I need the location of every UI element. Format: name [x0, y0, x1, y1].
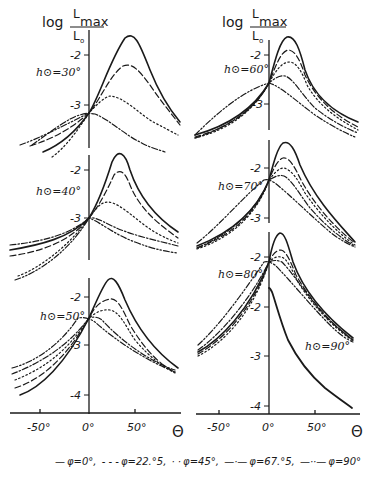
curve-phi-45: [15, 310, 175, 380]
svg-text:-4: -4: [70, 389, 81, 402]
svg-text:-3: -3: [250, 212, 261, 225]
legend-dotted-swatch: · ·: [172, 456, 182, 467]
curve-phi-22-5: [195, 50, 358, 137]
y-axis-label-left: log L max L o: [42, 7, 109, 45]
legend: —φ=0°, - - -φ=22.°5, · ·φ=45°, —·—φ=67.°…: [55, 456, 363, 467]
svg-text:h⊙=60°: h⊙=60°: [224, 63, 269, 76]
legend-dash-dot-dot-swatch: —··—: [300, 456, 326, 467]
svg-text:-4: -4: [250, 400, 261, 413]
svg-text:-3: -3: [70, 99, 81, 112]
svg-text:h⊙=30°: h⊙=30°: [36, 66, 81, 79]
legend-item-phi-0: φ=0°,: [67, 456, 97, 467]
svg-text:-2: -2: [250, 162, 261, 175]
curve-phi-67-5: [32, 113, 165, 152]
curve-phi-0: [10, 154, 178, 250]
legend-dash-dot-swatch: —·—: [224, 456, 247, 467]
svg-text:50°: 50°: [127, 421, 147, 434]
svg-text:h⊙=80°: h⊙=80°: [218, 268, 263, 281]
svg-text:o: o: [80, 37, 84, 45]
svg-text:-50°: -50°: [207, 421, 230, 434]
svg-text:0°: 0°: [262, 421, 275, 434]
x-tick-labels: -50° 0° 50° Θ -50° 0° 50° Θ: [27, 421, 363, 441]
svg-text:h⊙=40°: h⊙=40°: [36, 185, 81, 198]
svg-text:h⊙=50°: h⊙=50°: [40, 310, 85, 323]
curve-phi-67-5: [10, 218, 178, 246]
curve-phi-67-5: [12, 317, 175, 374]
svg-text:0°: 0°: [82, 421, 95, 434]
curve-phi-45: [18, 202, 178, 276]
curve-phi-0: [197, 142, 355, 246]
svg-text:-2: -2: [250, 251, 261, 264]
svg-text:log: log: [42, 14, 63, 30]
svg-text:o: o: [259, 37, 263, 45]
panel-h60: [195, 37, 358, 138]
svg-text:-2: -2: [250, 49, 261, 62]
curve-phi-0: [43, 36, 180, 152]
legend-dashed-swatch: - - -: [102, 456, 119, 467]
svg-text:log: log: [222, 14, 243, 30]
y-axis-label-right: log L max L o: [222, 7, 288, 45]
svg-text:Θ: Θ: [351, 423, 363, 441]
panel-h30: [20, 36, 180, 157]
svg-text:-50°: -50°: [27, 421, 50, 434]
curve-phi-0: [20, 278, 178, 395]
svg-text:Θ: Θ: [172, 423, 184, 441]
curve-phi-0: [198, 233, 353, 352]
figure-canvas: log L max L o log L max L o: [0, 0, 389, 483]
horizontal-axes: [10, 409, 360, 414]
legend-item-phi-45: φ=45°,: [183, 456, 219, 467]
svg-text:L: L: [73, 29, 80, 43]
panel-h70: [197, 142, 355, 249]
curve-phi-90: [12, 318, 175, 372]
legend-item-phi-67-5: φ=67.°5,: [249, 456, 294, 467]
svg-text:L: L: [73, 7, 80, 21]
svg-text:L: L: [252, 29, 259, 43]
svg-text:-3: -3: [250, 350, 261, 363]
panel-h50: [12, 278, 178, 395]
svg-text:-2: -2: [70, 291, 81, 304]
legend-item-phi-22-5: φ=22.°5,: [121, 456, 166, 467]
curve-phi-90: [15, 218, 178, 280]
svg-text:L: L: [252, 7, 259, 21]
legend-solid-swatch: —: [55, 456, 65, 467]
svg-text:h⊙=70°: h⊙=70°: [218, 180, 263, 193]
panel-h80: [198, 233, 353, 356]
svg-text:h⊙=90°: h⊙=90°: [305, 340, 350, 353]
legend-item-phi-90: φ=90°: [328, 456, 361, 467]
svg-text:-2: -2: [70, 49, 81, 62]
panel-h40: [10, 154, 178, 280]
svg-text:50°: 50°: [307, 421, 327, 434]
curve-phi-67-5: [195, 76, 358, 138]
svg-text:-3: -3: [70, 212, 81, 225]
svg-text:-2: -2: [70, 164, 81, 177]
